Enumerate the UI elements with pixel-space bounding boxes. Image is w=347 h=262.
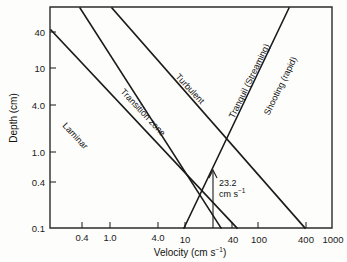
annotation-units-base: cm s <box>219 189 238 199</box>
x-tick-label-1000: 1000 <box>322 234 343 245</box>
y-tick-label-10: 10 <box>34 63 45 74</box>
annotation-units-sup: −1 <box>238 187 246 194</box>
series-label-turbulent: Turbulent <box>174 72 207 107</box>
x-axis-ticks <box>82 222 306 228</box>
x-axis-title: Velocity (cm s−1) <box>154 246 226 258</box>
annotation-units: cm s−1 <box>219 187 246 199</box>
x-axis-title-base: Velocity (cm s <box>154 247 216 258</box>
chart-canvas: 40 10 4.0 1.0 0.4 0.1 0.4 1.0 4.0 10 40 … <box>0 0 347 262</box>
x-tick-label-1: 1.0 <box>103 232 116 243</box>
x-tick-label-4: 4.0 <box>151 232 164 243</box>
series-label-transition-zone: Transition zone <box>119 87 168 139</box>
y-tick-label-0.4: 0.4 <box>32 177 45 188</box>
y-axis-title: Depth (cm) <box>8 93 19 142</box>
x-axis-title-close: ) <box>223 247 226 258</box>
series-label-shooting-rapid: Shooting (rapid) <box>262 55 299 117</box>
x-tick-label-400: 400 <box>298 234 314 245</box>
series-line-turbulent <box>112 8 305 228</box>
y-tick-label-0.1: 0.1 <box>32 223 45 234</box>
y-tick-label-4: 4.0 <box>32 100 45 111</box>
series-line-laminar <box>51 30 237 228</box>
y-axis-ticks <box>50 32 56 182</box>
annotation-units-text: cm s−1 <box>219 187 246 199</box>
y-tick-label-1: 1.0 <box>32 147 45 158</box>
plot-frame <box>50 7 332 228</box>
y-tick-label-40: 40 <box>34 27 45 38</box>
annotation-value: 23.2 <box>219 178 237 188</box>
x-tick-label-100: 100 <box>251 234 267 245</box>
series-label-laminar: Laminar <box>61 121 90 152</box>
x-tick-label-10: 10 <box>180 234 191 245</box>
x-tick-label-0.4: 0.4 <box>75 232 88 243</box>
x-tick-label-40: 40 <box>228 234 239 245</box>
figure-container: 40 10 4.0 1.0 0.4 0.1 0.4 1.0 4.0 10 40 … <box>0 0 347 262</box>
x-axis-title-text: Velocity (cm s−1) <box>154 246 226 258</box>
